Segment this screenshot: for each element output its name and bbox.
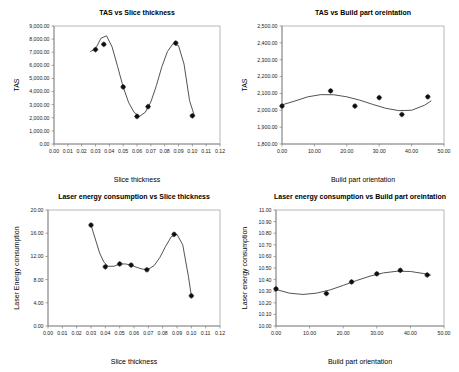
data-marker-cross — [349, 279, 355, 285]
chart-laser-energy-vs-slice-thickness: Laser energy consumption vs Slice thickn… — [8, 188, 230, 370]
y-tick-label: 12.00 — [31, 253, 44, 259]
x-axis-title: Build part orientation — [328, 358, 392, 366]
x-tick-label: 0.01 — [63, 148, 73, 154]
x-tick-label: 0.10 — [187, 148, 197, 154]
y-tick-label: 6,000.00 — [29, 62, 49, 68]
y-tick-label: 8,000.00 — [29, 36, 49, 42]
y-tick-label: 10.90 — [259, 219, 272, 225]
trend-line — [91, 36, 195, 116]
data-marker-cross — [397, 267, 403, 273]
data-point — [145, 104, 151, 110]
plot-frame — [282, 26, 444, 144]
data-point — [93, 47, 99, 53]
data-marker-cross — [376, 95, 382, 101]
data-point — [399, 112, 405, 118]
data-marker-cross — [117, 261, 123, 267]
x-tick-label: 0.02 — [77, 148, 87, 154]
data-point — [349, 279, 355, 285]
x-axis-title: Slice thickness — [114, 176, 161, 183]
x-axis-title: Build part orientation — [331, 176, 395, 184]
data-marker-cross — [88, 222, 94, 228]
data-point — [352, 103, 358, 109]
data-point — [425, 94, 431, 100]
chart-title: TAS vs Slice thickness — [99, 9, 175, 16]
x-tick-label: 30.00 — [373, 148, 386, 154]
x-tick-label: 0.03 — [86, 330, 96, 336]
data-point — [424, 272, 430, 278]
y-tick-label: 4.00 — [33, 300, 43, 306]
data-point — [120, 84, 126, 90]
y-tick-label: 20.00 — [31, 207, 44, 213]
y-tick-label: 10.00 — [259, 323, 272, 329]
y-tick-label: 10.20 — [259, 300, 272, 306]
data-marker-cross — [128, 262, 134, 268]
y-tick-label: 5,000.00 — [29, 75, 49, 81]
x-tick-label: 0.11 — [201, 330, 211, 336]
y-tick-label: 2,300.00 — [257, 57, 277, 63]
data-marker-cross — [424, 272, 430, 278]
x-tick-label: 0.12 — [215, 330, 225, 336]
plot-frame — [48, 210, 220, 326]
data-marker-cross — [93, 47, 99, 53]
data-point — [88, 222, 94, 228]
data-marker-cross — [425, 94, 431, 100]
x-tick-label: 0.03 — [90, 148, 100, 154]
chart-svg: TAS vs Slice thickness0.001,000.002,000.… — [8, 4, 230, 188]
x-tick-label: 20.00 — [340, 148, 353, 154]
x-tick-label: 0.04 — [104, 148, 114, 154]
x-tick-label: 0.07 — [146, 148, 156, 154]
y-tick-label: 11.00 — [259, 207, 272, 213]
data-marker-cross — [352, 103, 358, 109]
plot-frame — [54, 26, 220, 144]
data-marker-cross — [188, 293, 194, 299]
x-tick-label: 0.12 — [215, 148, 225, 154]
y-axis-title: Laser energy consumption — [241, 227, 249, 310]
x-tick-label: 0.05 — [115, 330, 125, 336]
x-tick-label: 0.08 — [158, 330, 168, 336]
data-point — [128, 262, 134, 268]
data-marker-cross — [120, 84, 126, 90]
chart-svg: Laser energy consumption vs Slice thickn… — [8, 188, 230, 370]
data-point — [188, 293, 194, 299]
y-tick-label: 3,000.00 — [29, 102, 49, 108]
y-tick-label: 10.70 — [259, 242, 272, 248]
chart-tas-vs-slice-thickness: TAS vs Slice thickness0.001,000.002,000.… — [8, 4, 230, 188]
y-axis-title: TAS — [13, 78, 20, 91]
x-tick-label: 0.01 — [57, 330, 67, 336]
y-tick-label: 1,000.00 — [29, 128, 49, 134]
y-tick-label: 2,200.00 — [257, 73, 277, 79]
x-tick-label: 0.00 — [43, 330, 53, 336]
y-tick-label: 16.00 — [31, 230, 44, 236]
x-tick-label: 10.00 — [303, 330, 316, 336]
y-tick-label: 0.00 — [33, 323, 43, 329]
data-marker-cross — [102, 264, 108, 270]
x-tick-label: 0.10 — [186, 330, 196, 336]
y-tick-label: 2,500.00 — [257, 23, 277, 29]
figure-panel: TAS vs Slice thickness0.001,000.002,000.… — [0, 0, 459, 372]
chart-laser-energy-vs-build-part-orientation: Laser energy consumption vs Build part o… — [236, 188, 454, 370]
chart-svg: TAS vs Build part oreintation1,800.001,9… — [236, 4, 454, 188]
x-axis-title: Slice thickness — [111, 358, 158, 365]
data-point — [134, 114, 140, 120]
y-tick-label: 10.60 — [259, 253, 272, 259]
data-point — [117, 261, 123, 267]
y-tick-label: 0.00 — [39, 141, 49, 147]
chart-svg: Laser energy consumption vs Build part o… — [236, 188, 454, 370]
plot-frame — [276, 210, 444, 326]
x-tick-label: 0.05 — [118, 148, 128, 154]
x-tick-label: 0.09 — [173, 148, 183, 154]
x-tick-label: 30.00 — [370, 330, 383, 336]
y-tick-label: 2,400.00 — [257, 40, 277, 46]
data-point — [101, 41, 107, 47]
data-marker-cross — [134, 114, 140, 120]
x-tick-label: 0.06 — [129, 330, 139, 336]
data-marker-cross — [189, 113, 195, 119]
y-tick-label: 4,000.00 — [29, 88, 49, 94]
trend-line — [91, 225, 191, 296]
y-tick-label: 10.10 — [259, 311, 272, 317]
data-point — [189, 113, 195, 119]
y-tick-label: 10.80 — [259, 230, 272, 236]
x-tick-label: 0.02 — [72, 330, 82, 336]
data-marker-cross — [399, 112, 405, 118]
y-tick-label: 10.50 — [259, 265, 272, 271]
